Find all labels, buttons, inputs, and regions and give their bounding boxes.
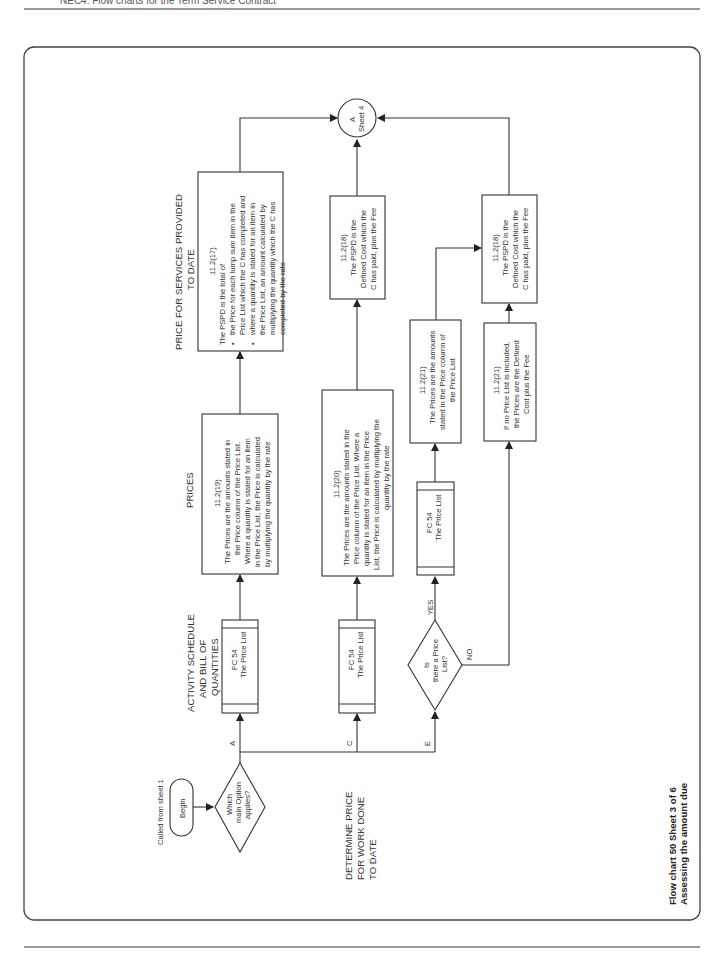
svg-text:Where a quantity is stated for: Where a quantity is stated for an item — [243, 438, 252, 564]
svg-text:The Prices are the amounts sta: The Prices are the amounts stated in — [223, 440, 232, 564]
svg-text:stated in the Price column of: stated in the Price column of — [438, 333, 447, 430]
svg-text:The Prices are the amounts: The Prices are the amounts — [428, 331, 437, 424]
svg-text:Sheet 4: Sheet 4 — [357, 106, 366, 132]
svg-text:•: • — [248, 342, 257, 345]
svg-text:Flow chart 50 Sheet 3 of 6: Flow chart 50 Sheet 3 of 6 — [667, 787, 678, 905]
no-label: NO — [465, 649, 474, 660]
svg-text:TO DATE: TO DATE — [367, 839, 378, 880]
branch-bus — [240, 752, 435, 763]
page-header-text: NEC4: Flow charts for the Term Service C… — [60, 0, 276, 6]
svg-text:List, the Price is calculated: List, the Price is calculated by multipl… — [372, 419, 381, 570]
svg-text:the Price for each lump sum it: the Price for each lump sum item in the — [228, 203, 237, 335]
svg-text:in the Price List, the Price i: in the Price List, the Price is calculat… — [253, 437, 262, 567]
arrow-no — [462, 442, 509, 665]
svg-text:multiplying the quantity which: multiplying the quantity which the C has — [268, 201, 277, 335]
decision-price-list[interactable]: Is there a Price List? — [408, 620, 462, 710]
section-label-activity-schedule: ACTIVITY SCHEDULE AND BILL OF QUANTITIES — [185, 614, 220, 712]
svg-text:The PSPD is the: The PSPD is the — [349, 220, 358, 276]
svg-text:by multiplying the quantity by: by multiplying the quantity by the rate — [263, 442, 272, 567]
box-11-2-21-yes[interactable]: 11.2(21) The Prices are the amounts stat… — [410, 320, 461, 443]
svg-text:The PSPD is the total of: The PSPD is the total of — [218, 263, 227, 345]
svg-text:AND BILL OF: AND BILL OF — [197, 640, 208, 698]
svg-text:there a Price: there a Price — [431, 639, 440, 682]
fc54-box-e[interactable]: FC 54 The Price List — [417, 482, 454, 575]
fc54-box-a[interactable]: FC 54 The Price List — [222, 620, 258, 713]
svg-text:DETERMINE PRICE: DETERMINE PRICE — [343, 792, 354, 881]
svg-text:quantity by the rate: quantity by the rate — [382, 445, 391, 510]
arrow-pspd-to-connector — [240, 118, 337, 172]
svg-text:Price List which the C has com: Price List which the C has completed and — [238, 196, 247, 335]
connector-a-sheet-4[interactable]: A Sheet 4 — [338, 99, 376, 137]
arrow-11-2-18-bottom-to-connector — [378, 118, 509, 195]
svg-text:11.2(17): 11.2(17) — [208, 247, 217, 275]
svg-text:FC 54: FC 54 — [347, 649, 356, 670]
svg-text:QUANTITIES: QUANTITIES — [209, 638, 220, 696]
flowchart-page: NEC4: Flow charts for the Term Service C… — [0, 0, 714, 968]
svg-text:FC 54: FC 54 — [230, 649, 239, 670]
svg-text:11.2(19): 11.2(19) — [213, 479, 222, 507]
svg-text:The Prices are the amounts sta: The Prices are the amounts stated in the — [342, 429, 351, 566]
svg-text:the Price List: the Price List — [448, 357, 457, 402]
svg-text:PRICES: PRICES — [184, 472, 195, 508]
box-11-2-18-middle[interactable]: 11.2(18) The PSPD is the Defined Cost wh… — [330, 196, 385, 299]
svg-text:The PSPD is the: The PSPD is the — [501, 220, 510, 276]
svg-text:Called from sheet 1: Called from sheet 1 — [156, 779, 165, 845]
box-11-2-21-no[interactable]: 11.2(21) If no Price List is included, t… — [484, 323, 536, 441]
svg-text:completed by the rate: completed by the rate — [278, 262, 287, 335]
called-from-note: Called from sheet 1 — [156, 779, 165, 845]
section-label-prices: PRICES — [184, 472, 195, 508]
svg-text:where a quantity is stated for: where a quantity is stated for an item i… — [248, 203, 257, 336]
svg-text:Cost plus the Fee: Cost plus the Fee — [522, 354, 531, 414]
svg-text:FOR WORK DONE: FOR WORK DONE — [355, 797, 366, 880]
svg-text:the Prices are the Defined: the Prices are the Defined — [512, 340, 521, 428]
svg-text:•: • — [228, 342, 237, 345]
svg-text:11.2(21): 11.2(21) — [492, 366, 501, 394]
branch-label-c: C — [345, 740, 354, 746]
svg-text:TO DATE: TO DATE — [185, 249, 196, 290]
svg-text:Defined Cost which the: Defined Cost which the — [359, 210, 368, 288]
section-label-determine: DETERMINE PRICE FOR WORK DONE TO DATE — [343, 792, 378, 881]
box-11-2-19-prices[interactable]: 11.2(19) The Prices are the amounts stat… — [202, 414, 278, 574]
arrow-11-2-21-yes-to-11-2-18 — [436, 248, 481, 320]
svg-text:C has paid, plus the Fee: C has paid, plus the Fee — [521, 208, 530, 290]
svg-text:11.2(21): 11.2(21) — [418, 366, 427, 394]
svg-text:the Price List, an amount calc: the Price List, an amount calculated by — [258, 204, 267, 335]
branch-label-a: A — [228, 740, 237, 746]
svg-text:Which: Which — [225, 794, 234, 815]
svg-text:ACTIVITY SCHEDULE: ACTIVITY SCHEDULE — [185, 614, 196, 712]
svg-text:11.2(20): 11.2(20) — [332, 470, 341, 498]
svg-text:main Option: main Option — [234, 782, 243, 823]
begin-label: Begin — [178, 799, 187, 818]
svg-text:The Price List: The Price List — [239, 631, 248, 678]
begin-terminator[interactable]: Begin — [170, 779, 193, 836]
svg-text:the Price column of the Price: the Price column of the Price List. — [233, 442, 242, 555]
box-11-2-17-pspd[interactable]: 11.2(17) The PSPD is the total of • the … — [198, 172, 287, 351]
box-11-2-20-prices[interactable]: 11.2(20) The Prices are the amounts stat… — [322, 390, 393, 576]
svg-text:List?: List? — [440, 656, 449, 672]
svg-text:Defined Cost which the: Defined Cost which the — [511, 210, 520, 288]
box-11-2-18-bottom[interactable]: 11.2(18) The PSPD is the Defined Cost wh… — [482, 195, 537, 303]
svg-text:Price column of the Price List: Price column of the Price List. Where a — [352, 432, 361, 564]
svg-text:The Price List: The Price List — [356, 631, 365, 678]
svg-text:11.2(18): 11.2(18) — [339, 234, 348, 262]
svg-text:C has paid, plus the Fee: C has paid, plus the Fee — [369, 208, 378, 290]
decision-which-option[interactable]: Which main Option applies? — [215, 763, 265, 852]
svg-text:applies?: applies? — [243, 791, 252, 819]
footer-caption: Flow chart 50 Sheet 3 of 6 Assessing the… — [667, 783, 689, 905]
yes-label: YES — [426, 600, 435, 615]
svg-text:The Price List: The Price List — [434, 494, 443, 541]
svg-text:Is: Is — [422, 662, 431, 668]
svg-text:11.2(18): 11.2(18) — [491, 234, 500, 262]
svg-text:FC 54: FC 54 — [425, 512, 434, 533]
branch-label-e: E — [423, 741, 432, 746]
svg-text:Assessing the amount due: Assessing the amount due — [678, 783, 689, 905]
svg-text:PRICE FOR SERVICES PROVIDED: PRICE FOR SERVICES PROVIDED — [173, 194, 184, 350]
svg-text:If no Price List is included,: If no Price List is included, — [502, 342, 511, 430]
section-label-pspd: PRICE FOR SERVICES PROVIDED TO DATE — [173, 194, 196, 350]
fc54-box-c[interactable]: FC 54 The Price List — [339, 620, 375, 713]
svg-text:quantity is stated for an item: quantity is stated for an item in the Pr… — [362, 431, 371, 566]
